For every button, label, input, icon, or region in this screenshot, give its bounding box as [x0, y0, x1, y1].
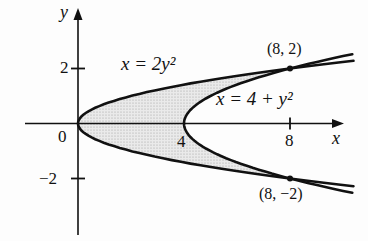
- y-tick-label-neg2: −2: [39, 170, 57, 187]
- point-label-8-2: (8, 2): [267, 41, 302, 57]
- x-tick-label-8: 8: [285, 132, 294, 149]
- x-tick-label-4: 4: [177, 133, 186, 150]
- y-axis-arrowhead: [74, 8, 83, 20]
- point-8--2: [287, 176, 293, 182]
- point-label-8-neg2: (8, −2): [259, 186, 303, 202]
- origin-label: 0: [58, 128, 67, 145]
- figure: y x 2 −2 0 4 8 x = 2y² x = 4 + y² (8, 2)…: [0, 0, 368, 241]
- equation-label-outer: x = 2y²: [121, 54, 175, 73]
- y-axis-label: y: [60, 3, 68, 21]
- x-axis-label: x: [332, 129, 340, 147]
- figure-canvas: [0, 0, 368, 241]
- x-axis-arrowhead: [332, 119, 344, 128]
- equation-label-inner: x = 4 + y²: [216, 89, 293, 108]
- y-tick-label-2: 2: [60, 59, 69, 76]
- point-8-2: [287, 66, 293, 72]
